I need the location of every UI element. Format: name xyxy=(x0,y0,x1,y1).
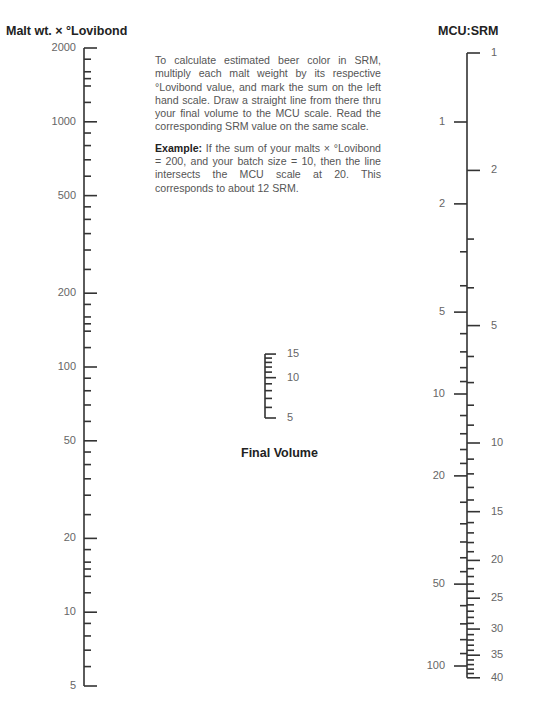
srm-tick-label: 15 xyxy=(491,505,503,517)
mcu-tick-label: 10 xyxy=(433,387,445,399)
mcu-tick-label: 2 xyxy=(439,197,445,209)
nomogram: 5102050100200500100020005101512510205010… xyxy=(0,0,535,707)
srm-tick-label: 30 xyxy=(491,622,503,634)
srm-tick-label: 2 xyxy=(491,163,497,175)
volume-tick-label: 10 xyxy=(287,371,299,383)
malt-tick-label: 200 xyxy=(58,286,76,298)
malt-tick-label: 10 xyxy=(64,605,76,617)
volume-tick-label: 15 xyxy=(287,347,299,359)
malt-tick-label: 20 xyxy=(64,531,76,543)
mcu-tick-label: 100 xyxy=(427,659,445,671)
srm-tick-label: 35 xyxy=(491,648,503,660)
volume-tick-label: 5 xyxy=(287,411,293,423)
malt-tick-label: 1000 xyxy=(52,115,76,127)
srm-tick-label: 10 xyxy=(491,436,503,448)
mcu-tick-label: 50 xyxy=(433,577,445,589)
mcu-tick-label: 20 xyxy=(433,469,445,481)
srm-tick-label: 25 xyxy=(491,591,503,603)
malt-tick-label: 2000 xyxy=(52,41,76,53)
srm-tick-label: 5 xyxy=(491,319,497,331)
malt-tick-label: 100 xyxy=(58,360,76,372)
srm-tick-label: 20 xyxy=(491,553,503,565)
malt-tick-label: 5 xyxy=(70,679,76,691)
mcu-tick-label: 1 xyxy=(439,115,445,127)
malt-tick-label: 500 xyxy=(58,189,76,201)
srm-tick-label: 40 xyxy=(491,671,503,683)
mcu-tick-label: 5 xyxy=(439,305,445,317)
malt-tick-label: 50 xyxy=(64,434,76,446)
srm-tick-label: 1 xyxy=(491,46,497,58)
